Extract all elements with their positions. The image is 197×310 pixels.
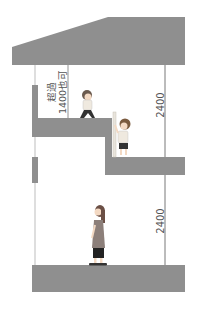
woman-standing-figure	[89, 205, 107, 266]
mid-floor	[105, 157, 185, 175]
lower-dimension-label: 2400	[155, 208, 166, 233]
ladder	[113, 112, 116, 157]
left-wall-block	[32, 157, 38, 183]
roof	[12, 17, 185, 65]
child-climbing-figure	[115, 119, 131, 156]
upper-dimension-label: 2400	[155, 92, 166, 117]
loft-note-line1: 超過	[46, 82, 57, 102]
section-diagram: 2400 2400 超過 1400也可	[0, 0, 197, 310]
loft-note-line2: 1400也可	[57, 70, 68, 114]
child-walking-figure	[80, 90, 95, 118]
ground-floor	[32, 265, 185, 292]
loft-floor	[32, 118, 112, 137]
